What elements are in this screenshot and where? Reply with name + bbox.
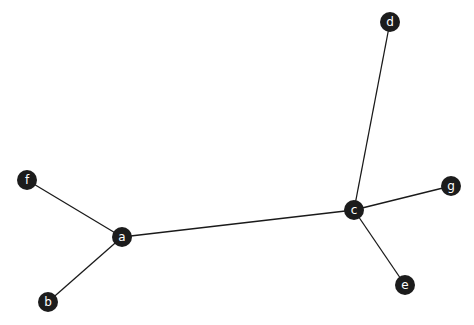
- node-d[interactable]: d: [380, 12, 400, 32]
- edge-a-c: [122, 210, 354, 237]
- node-label: d: [386, 15, 394, 29]
- node-b[interactable]: b: [38, 292, 58, 312]
- node-f[interactable]: f: [17, 170, 37, 190]
- node-label: b: [44, 295, 52, 309]
- network-graph: abcdefg: [0, 0, 474, 325]
- node-a[interactable]: a: [112, 227, 132, 247]
- node-label: g: [447, 179, 455, 193]
- edge-c-g: [354, 186, 451, 210]
- node-c[interactable]: c: [344, 200, 364, 220]
- nodes-layer: abcdefg: [17, 12, 461, 312]
- node-label: c: [351, 203, 358, 217]
- node-label: e: [401, 278, 408, 292]
- edge-a-f: [27, 180, 122, 237]
- edges-layer: [27, 22, 451, 302]
- node-g[interactable]: g: [441, 176, 461, 196]
- node-label: a: [118, 230, 125, 244]
- edge-c-d: [354, 22, 390, 210]
- edge-c-e: [354, 210, 405, 285]
- node-e[interactable]: e: [395, 275, 415, 295]
- edge-a-b: [48, 237, 122, 302]
